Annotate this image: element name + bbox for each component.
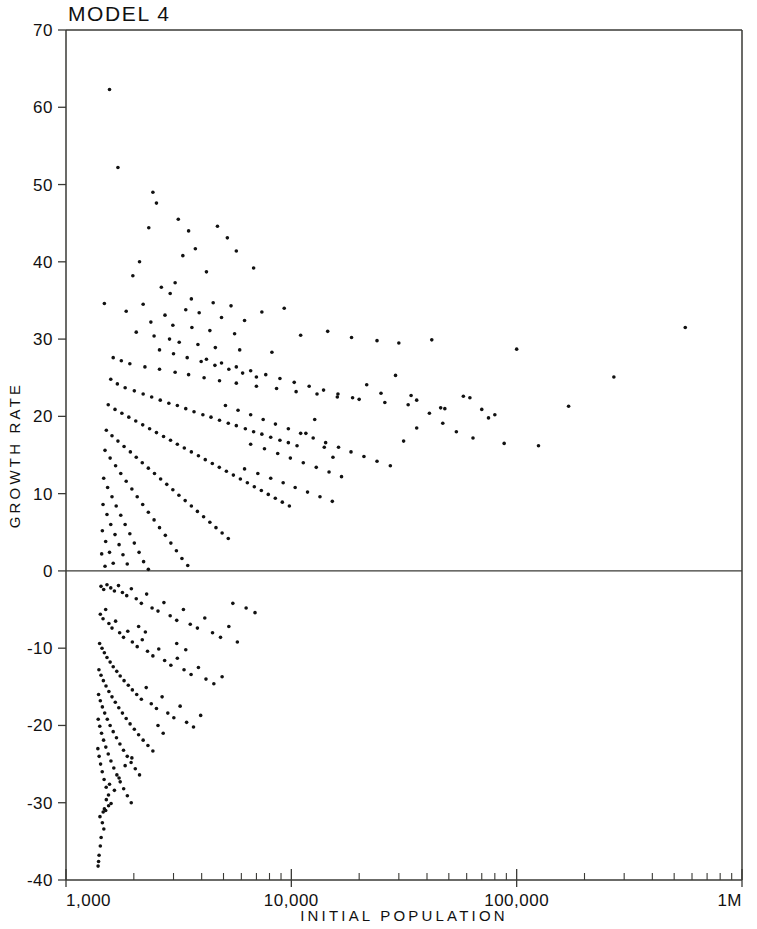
data-point (202, 515, 206, 519)
data-point (197, 311, 201, 315)
data-point (116, 166, 120, 170)
data-point (441, 422, 445, 426)
data-point (123, 764, 127, 768)
data-point (208, 329, 212, 333)
data-point (235, 424, 239, 428)
data-point (197, 454, 201, 458)
data-point (243, 467, 247, 471)
data-point (103, 449, 107, 453)
data-point (102, 588, 106, 592)
data-point (149, 320, 153, 324)
data-point (100, 731, 104, 735)
data-point (159, 477, 163, 481)
y-tick-label: 20 (33, 407, 53, 426)
data-point (415, 426, 419, 430)
data-point (287, 427, 291, 431)
data-point (96, 717, 100, 721)
data-point (294, 390, 298, 394)
data-point (307, 384, 311, 388)
data-point (194, 247, 198, 251)
data-point (122, 748, 126, 752)
data-point (255, 384, 259, 388)
data-point (282, 306, 286, 310)
data-point (98, 815, 102, 819)
plot-canvas: 706050403020100-10-20-30-401,00010,00010… (0, 0, 757, 929)
data-point (151, 749, 155, 753)
data-points-group (96, 88, 687, 868)
data-point (104, 540, 108, 544)
data-point (118, 780, 122, 784)
data-point (111, 665, 115, 669)
data-point (190, 504, 194, 508)
data-point (107, 690, 111, 694)
data-point (108, 724, 112, 728)
data-point (108, 551, 112, 555)
data-point (134, 456, 138, 460)
data-point (301, 461, 305, 465)
data-point (111, 356, 115, 360)
data-point (130, 487, 134, 491)
data-point (537, 444, 541, 448)
data-point (493, 413, 497, 417)
data-point (255, 375, 259, 379)
data-point (274, 422, 278, 426)
data-point (104, 785, 108, 789)
data-point (428, 411, 432, 415)
data-point (125, 594, 129, 598)
data-point (468, 396, 472, 400)
data-point (111, 730, 115, 734)
data-point (127, 683, 131, 687)
data-point (130, 587, 134, 591)
data-point (350, 336, 354, 340)
data-point (149, 702, 153, 706)
data-point (196, 510, 200, 514)
data-point (249, 413, 253, 417)
data-point (178, 704, 182, 708)
data-point (133, 767, 137, 771)
data-point (567, 405, 571, 409)
data-point (397, 341, 401, 345)
data-point (415, 398, 419, 402)
data-point (176, 656, 180, 660)
data-point (163, 313, 167, 317)
data-point (147, 466, 151, 470)
data-point (235, 365, 239, 369)
data-point (137, 551, 141, 555)
data-point (311, 436, 315, 440)
data-point (190, 297, 194, 301)
data-point (203, 458, 207, 462)
data-point (118, 631, 122, 635)
y-tick-label: 30 (33, 330, 53, 349)
data-point (103, 302, 107, 306)
data-point (118, 674, 122, 678)
data-point (190, 326, 194, 330)
data-point (184, 308, 188, 312)
data-point (293, 486, 297, 490)
data-point (183, 499, 187, 503)
data-point (612, 375, 616, 379)
data-point (182, 668, 186, 672)
data-point (158, 398, 162, 402)
y-tick-label: -30 (27, 794, 53, 813)
data-point (100, 552, 104, 556)
data-point (196, 626, 200, 630)
data-point (683, 326, 687, 330)
data-point (147, 510, 151, 514)
data-point (138, 260, 142, 264)
data-point (201, 413, 205, 417)
x-axis-title: INITIAL POPULATION (300, 907, 508, 924)
data-point (106, 486, 110, 490)
data-point (443, 407, 447, 411)
data-point (131, 688, 135, 692)
data-point (102, 778, 106, 782)
data-point (487, 416, 491, 420)
data-point (176, 442, 180, 446)
data-point (351, 396, 355, 400)
data-point (129, 801, 133, 805)
data-point (253, 485, 257, 489)
data-point (109, 523, 113, 527)
data-point (229, 304, 233, 308)
data-point (135, 495, 139, 499)
data-point (110, 626, 114, 630)
data-point (264, 373, 268, 377)
